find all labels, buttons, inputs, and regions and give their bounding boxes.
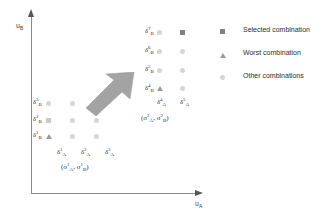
- data-point-other: [180, 86, 185, 91]
- x-axis-arrowhead-icon: [195, 190, 203, 196]
- data-point-other: [70, 134, 75, 139]
- data-point-other: [70, 101, 75, 106]
- group1-caption: (σ1A, σ1B): [61, 164, 89, 171]
- legend-label-selected: Selected combination: [243, 26, 310, 33]
- data-point-other: [46, 101, 51, 106]
- group2-caption: (σ2A, σ2B): [141, 115, 169, 122]
- caption-separator: , σ: [153, 114, 160, 122]
- sigma-superscript: 2: [147, 113, 150, 118]
- delta-subscript: A: [186, 102, 190, 107]
- data-point-other: [94, 118, 99, 123]
- legend-item-selected: Selected combination: [219, 26, 323, 49]
- shift-arrow-icon: [86, 72, 138, 116]
- data-point-selected: [180, 30, 185, 35]
- group1-x-tick-label: δ1A: [57, 149, 66, 156]
- group2-x-tick-label: δ4A: [157, 99, 166, 106]
- caption-close-paren: ): [86, 163, 88, 171]
- delta-subscript: A: [111, 152, 115, 157]
- delta-subscript: B: [39, 119, 42, 124]
- legend-circle-marker-icon: [219, 74, 227, 82]
- legend-label-other: Other combinations: [243, 72, 304, 79]
- delta-subscript: B: [39, 135, 42, 140]
- delta-subscript: B: [151, 69, 154, 74]
- x-axis-label-subscript: A: [199, 203, 202, 209]
- group2-y-tick-label: δ6B: [145, 47, 154, 54]
- sigma-superscript: 1: [81, 162, 84, 167]
- data-point-other: [70, 118, 75, 123]
- caption-close-paren: ): [166, 114, 168, 122]
- legend-item-worst: Worst combination: [219, 49, 323, 72]
- group2-y-tick-label: δ5B: [145, 66, 154, 73]
- sigma-superscript: 1: [67, 162, 70, 167]
- scatter-plot-figure: uB uA δ3B δ2B δ1B δ1A δ2A δ3A: [0, 0, 327, 215]
- group1-y-tick-label: δ3B: [33, 99, 42, 106]
- legend: Selected combination Worst combination O…: [219, 26, 323, 95]
- delta-subscript: B: [151, 88, 154, 93]
- delta-subscript: B: [39, 102, 42, 107]
- y-axis-label-subscript: B: [20, 25, 23, 31]
- x-axis-label: uA: [195, 200, 202, 207]
- delta-subscript: B: [151, 31, 154, 36]
- data-point-worst: [46, 134, 52, 139]
- delta-subscript: A: [63, 152, 67, 157]
- sigma-superscript: 2: [161, 113, 164, 118]
- caption-separator: , σ: [73, 163, 80, 171]
- legend-item-other: Other combinations: [219, 72, 323, 95]
- delta-subscript: A: [163, 102, 167, 107]
- data-point-worst: [157, 86, 163, 91]
- data-point-other: [180, 68, 185, 73]
- data-point-other: [46, 118, 51, 123]
- group1-y-tick-label: δ2B: [33, 116, 42, 123]
- y-axis-label: uB: [16, 22, 23, 29]
- data-point-other: [157, 30, 162, 35]
- y-axis-arrowhead-icon: [28, 9, 34, 17]
- group2-y-tick-label: δ7B: [145, 28, 154, 35]
- group1-y-tick-label: δ1B: [33, 132, 42, 139]
- data-point-other: [157, 49, 162, 54]
- legend-triangle-marker-icon: [219, 51, 227, 59]
- legend-square-marker-icon: [219, 28, 227, 36]
- y-axis-line: [31, 16, 32, 194]
- legend-label-worst: Worst combination: [243, 49, 301, 56]
- group2-x-tick-label: δ5A: [180, 99, 189, 106]
- group1-x-tick-label: δ2A: [81, 149, 90, 156]
- data-point-other: [180, 49, 185, 54]
- data-point-other: [157, 68, 162, 73]
- delta-subscript: B: [151, 50, 154, 55]
- group1-x-tick-label: δ3A: [105, 149, 114, 156]
- delta-subscript: A: [87, 152, 91, 157]
- data-point-other: [94, 134, 99, 139]
- group2-y-tick-label: δ4B: [145, 85, 154, 92]
- x-axis-line: [31, 193, 196, 194]
